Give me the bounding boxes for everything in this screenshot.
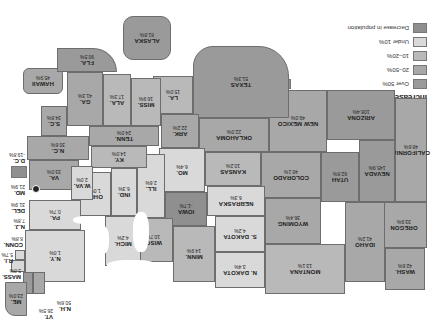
lake-huron [95, 226, 109, 254]
capital-marker-icon [32, 185, 40, 193]
label-md: MD.21.9% [11, 184, 25, 196]
state-nc: N.C.30.6% [27, 136, 89, 160]
state-wash: WASH.42.6% [385, 248, 425, 290]
state-n-dakota: N. DAKOTA3.4% [215, 252, 265, 288]
legend-swatch [413, 79, 427, 89]
label-ri: R.I.5.7% [2, 252, 13, 264]
lake-erie [73, 216, 103, 224]
legend-item-20to50: 20–50% [287, 64, 427, 76]
state-ala: ALA.17.3% [103, 74, 131, 126]
state-miss: MISS.16.9% [131, 78, 161, 126]
state-arizona: ARIZONA108.4% [327, 90, 395, 140]
state-texas: TEXAS51.3% [193, 46, 289, 118]
legend-swatch [413, 51, 427, 61]
state-pa: PA.0.7% [29, 200, 81, 230]
state-montana: MONTANA13.1% [265, 244, 345, 294]
legend-item-over50: Over 50% [287, 78, 427, 90]
state-alaska: ALASKA81.8% [123, 16, 171, 60]
state-utah: UTAH62.8% [321, 152, 359, 202]
legend-label: Under 10% [379, 39, 409, 45]
state-wyoming: WYOMING36.4% [265, 198, 321, 244]
label-nh: N.H.50.6% [57, 300, 71, 312]
state-ga: GA.41.3% [67, 72, 103, 126]
label-vt: VT.26.5% [39, 308, 53, 320]
state-ark: ARK.22.2% [161, 114, 199, 148]
state-conn [15, 250, 25, 260]
legend-swatch [413, 23, 427, 33]
legend-label: Decrease in population [348, 25, 409, 31]
state-mo: MO.6.4% [159, 148, 205, 192]
state-fla: FLA.90.5% [57, 48, 117, 72]
state-sc: S.C.34.8% [41, 106, 67, 136]
label-mass: MASS.5.8% [2, 268, 21, 280]
state-s-dakota: S. DAKOTA4.2% [215, 216, 265, 252]
state-oregon: OREGON33.9% [381, 202, 427, 248]
legend-swatch [413, 37, 427, 47]
state-colorado: COLORADO48.1% [261, 152, 321, 198]
label-dc: D.C.-19.8% [9, 152, 25, 164]
label-conn: CONN.8.8% [4, 236, 23, 248]
state-kansas: KANSAS10.2% [205, 152, 261, 186]
state-minn: MINN.14.9% [173, 226, 215, 282]
label-nj: N.J.7.8% [14, 218, 25, 230]
legend-swatch [413, 65, 427, 75]
state-me: ME.23.0% [5, 282, 27, 316]
legend-item-decrease: Decrease in population [287, 22, 427, 34]
lake-superior [107, 260, 157, 272]
lake-michigan [133, 212, 149, 252]
legend-label: Over 50% [382, 81, 409, 87]
state-nebraska: NEBRASKA6.3% [207, 186, 265, 216]
state-tenn: TENN.24.0% [89, 126, 159, 146]
legend-item-under10: Under 10% [287, 36, 427, 48]
legend-label: 10–20% [387, 53, 409, 59]
state-vt [33, 272, 45, 294]
state-wva: W.VA.2.0% [71, 166, 93, 200]
state-idaho: IDAHO41.2% [345, 202, 385, 282]
state-ind: IND.6.3% [111, 168, 137, 216]
population-change-map: Increase in population Over 50% 20–50% 1… [0, 0, 439, 322]
state-nevada: NEVADA145.9% [359, 140, 395, 202]
legend-item-10to20: 10–20% [287, 50, 427, 62]
state-california: CALIFORNIA48.6% [395, 98, 427, 202]
state-ky: KY.14.0% [91, 146, 147, 168]
state-oklahoma: OKLAHOMA22.0% [199, 118, 269, 152]
legend-label: 20–50% [387, 67, 409, 73]
label-del: DEL.31.9% [11, 202, 25, 214]
dc-swatch [11, 166, 27, 178]
